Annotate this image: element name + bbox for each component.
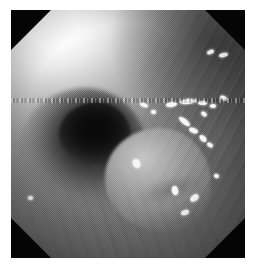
- page-root: [0, 0, 255, 272]
- corner-mask-top-right: [205, 10, 245, 50]
- endoscopic-image: [11, 10, 245, 258]
- image-caption: [11, 246, 245, 258]
- corner-mask-top-left: [11, 10, 51, 50]
